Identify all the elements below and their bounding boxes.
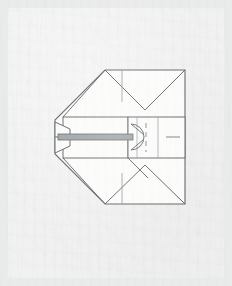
technical-drawing xyxy=(0,0,232,286)
thread-detail xyxy=(128,117,185,158)
shank-bar xyxy=(58,134,133,140)
screenshot-canvas xyxy=(0,0,232,286)
